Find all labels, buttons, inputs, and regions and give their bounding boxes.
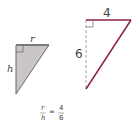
equation-left-denominator: h	[41, 115, 46, 122]
similar-triangles-diagram	[0, 0, 137, 127]
equation-right-numerator: 4	[59, 105, 63, 112]
large-triangle-4-label: 4	[103, 7, 111, 19]
equation-left-numerator: r	[41, 105, 44, 112]
small-triangle-h-label: h	[7, 64, 13, 74]
equation-right-denominator: 6	[59, 115, 63, 122]
large-triangle-hypotenuse	[86, 20, 131, 89]
large-right-angle-mark	[86, 20, 93, 27]
large-triangle-6-label: 6	[75, 48, 83, 60]
equation-equals: =	[49, 109, 55, 116]
small-triangle-r-label: r	[30, 34, 35, 44]
